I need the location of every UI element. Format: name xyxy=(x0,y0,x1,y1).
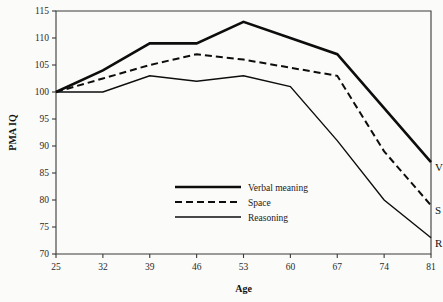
x-tick-label: 67 xyxy=(333,262,343,272)
end-label-v: V xyxy=(435,161,443,173)
y-tick-label: 110 xyxy=(35,33,49,43)
chart-figure: 7075808590951001051101152532394653606774… xyxy=(0,0,443,302)
y-tick-label: 85 xyxy=(40,168,50,178)
y-tick-label: 80 xyxy=(40,195,50,205)
x-tick-label: 81 xyxy=(426,262,436,272)
series-line-s xyxy=(56,54,431,205)
chart-axes: 7075808590951001051101152532394653606774… xyxy=(35,6,436,272)
chart-series xyxy=(56,22,431,238)
y-tick-label: 100 xyxy=(35,87,50,97)
x-tick-label: 74 xyxy=(379,262,389,272)
y-axis-title: PMA IQ xyxy=(7,114,18,151)
end-label-s: S xyxy=(435,204,441,216)
y-tick-label: 95 xyxy=(40,114,50,124)
series-line-v xyxy=(56,22,431,162)
legend-label-2: Reasoning xyxy=(248,213,288,223)
legend-label-1: Space xyxy=(248,198,271,208)
series-line-r xyxy=(56,76,431,238)
x-tick-label: 39 xyxy=(145,262,155,272)
legend-label-0: Verbal meaning xyxy=(248,183,308,193)
x-tick-label: 46 xyxy=(192,262,202,272)
chart-legend: Verbal meaningSpaceReasoning xyxy=(175,183,308,223)
y-tick-label: 70 xyxy=(40,249,50,259)
y-tick-label: 105 xyxy=(35,60,50,70)
x-tick-label: 32 xyxy=(98,262,108,272)
x-tick-label: 53 xyxy=(239,262,249,272)
y-tick-label: 75 xyxy=(40,222,50,232)
y-tick-label: 115 xyxy=(35,6,49,16)
plot-frame xyxy=(56,11,431,254)
y-tick-label: 90 xyxy=(40,141,50,151)
x-tick-label: 25 xyxy=(51,262,61,272)
series-end-labels: VSR xyxy=(435,161,443,249)
x-axis-title: Age xyxy=(235,283,252,294)
end-label-r: R xyxy=(435,237,443,249)
x-tick-label: 60 xyxy=(286,262,296,272)
line-chart: 7075808590951001051101152532394653606774… xyxy=(0,0,443,302)
